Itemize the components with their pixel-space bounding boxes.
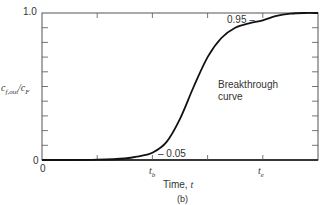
- x-axis-label-text: Time,: [163, 179, 190, 190]
- y-axis-label: cf,out/cF: [1, 83, 30, 96]
- x-axis-label-var: t: [190, 179, 193, 190]
- x-tick-label-te: te: [258, 166, 264, 179]
- tb-sub: b: [152, 171, 156, 179]
- chart-plot-area: [0, 0, 326, 205]
- annotation-breakthrough-line2: curve: [218, 92, 242, 102]
- y-tick-label-zero: 0: [33, 156, 39, 166]
- annotation-0-05: – 0.05: [158, 149, 186, 159]
- y-axis-label-sub2: F: [25, 88, 29, 96]
- annotation-0-95: 0.95 –: [227, 15, 255, 25]
- x-tick-label-tb: tb: [149, 166, 155, 179]
- x-tick-label-zero: 0: [40, 164, 46, 174]
- y-tick-label-top: 1.0: [23, 7, 37, 17]
- x-axis-label: Time, t: [163, 180, 193, 190]
- te-sub: e: [261, 171, 264, 179]
- y-axis-label-sub1: f,out: [5, 88, 18, 96]
- annotation-breakthrough-line1: Breakthrough: [218, 80, 278, 90]
- figure-caption: (b): [177, 195, 188, 204]
